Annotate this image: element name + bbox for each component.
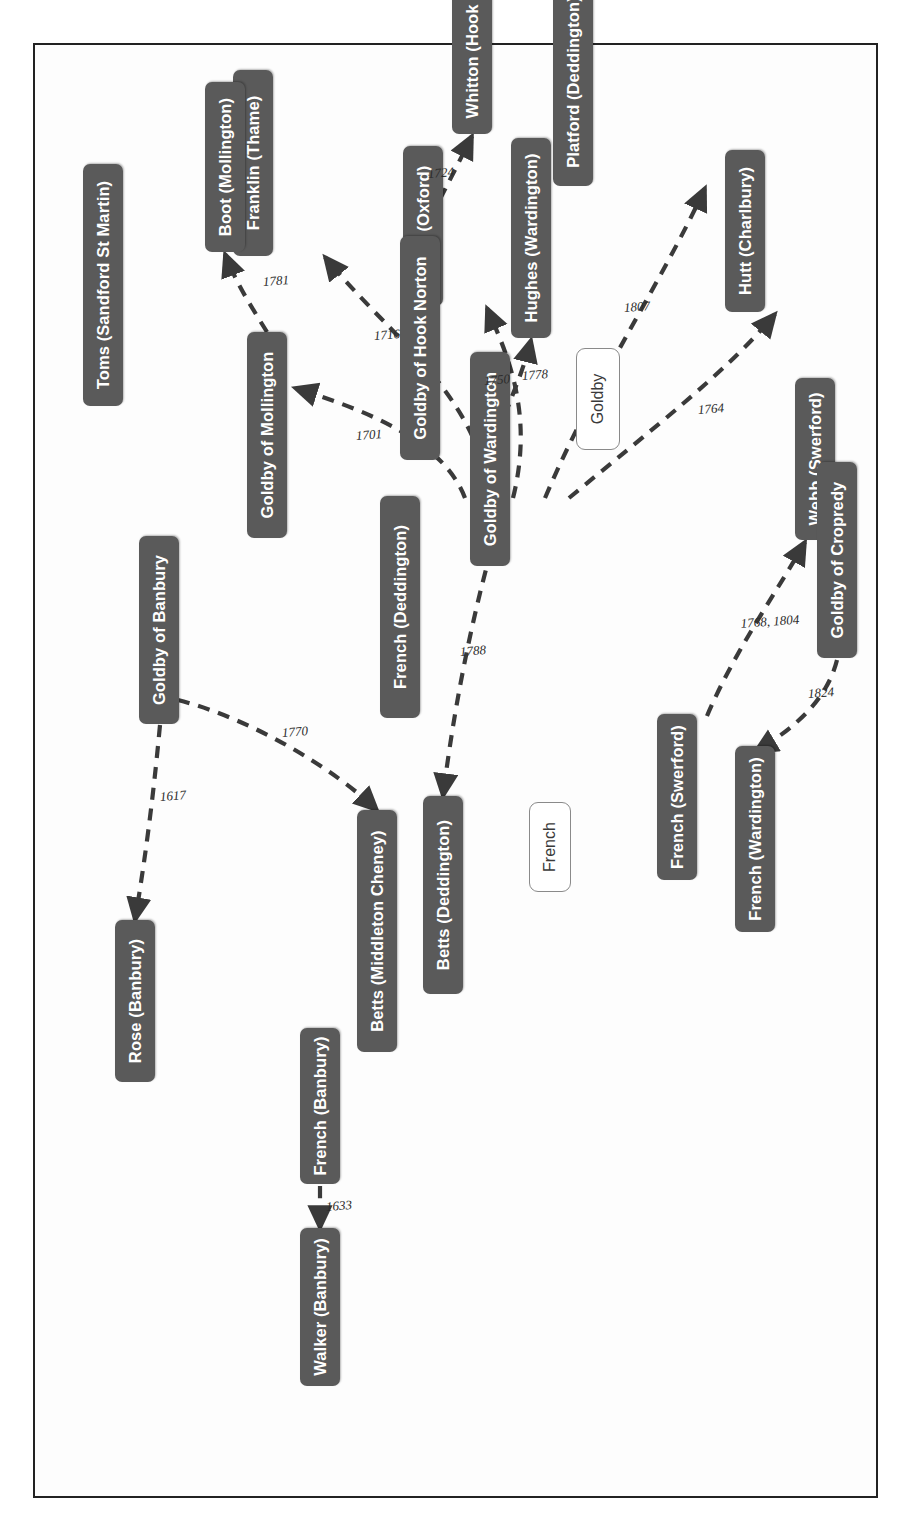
node-goldby-banbury[interactable]: Goldby of Banbury: [139, 536, 179, 724]
node-betts-middleton[interactable]: Betts (Middleton Cheney): [357, 810, 397, 1052]
edge-path-1807: [545, 188, 705, 498]
diagram-stage: Toms (Sandford St Martin) Franklin (Tham…: [35, 45, 880, 1500]
node-french-wardington[interactable]: French (Wardington): [735, 746, 775, 932]
edge-path-1824: [755, 660, 837, 752]
edge-label-1701: 1701: [355, 426, 382, 444]
edge-label-1724: 1724: [427, 164, 454, 182]
edge-label-1781: 1781: [262, 272, 289, 290]
edge-path-1617: [135, 725, 160, 920]
node-walker[interactable]: Walker (Banbury): [300, 1228, 340, 1386]
edge-label-1633: 1633: [325, 1197, 352, 1215]
edge-label-1807: 1807: [623, 298, 650, 316]
node-french-swerford[interactable]: French (Swerford): [657, 714, 697, 880]
node-boot[interactable]: Boot (Mollington): [205, 82, 245, 252]
node-goldby-cropredy[interactable]: Goldby of Cropredy: [817, 462, 857, 658]
diagram-frame: Toms (Sandford St Martin) Franklin (Tham…: [33, 43, 878, 1498]
edge-label-1788: 1788: [459, 642, 486, 660]
diagram-page: Toms (Sandford St Martin) Franklin (Tham…: [0, 0, 909, 1538]
edge-label-1778: 1778: [521, 366, 548, 384]
node-goldby-mollington[interactable]: Goldby of Mollington: [247, 332, 287, 538]
edge-label-1716: 1716: [373, 326, 400, 344]
node-hutt[interactable]: Hutt (Charlbury): [725, 150, 765, 312]
node-hughes[interactable]: Hughes (Wardington): [511, 138, 551, 338]
legend-box-goldby[interactable]: Goldby: [576, 348, 620, 450]
node-toms[interactable]: Toms (Sandford St Martin): [83, 164, 123, 406]
edge-label-1750: 1750: [483, 371, 510, 389]
edge-label-1824: 1824: [807, 684, 834, 702]
node-french-deddington[interactable]: French (Deddington): [380, 496, 420, 718]
edge-path-1770: [178, 700, 377, 810]
legend-box-french[interactable]: French: [529, 802, 571, 892]
node-betts-deddington[interactable]: Betts (Deddington): [423, 796, 463, 994]
node-platford[interactable]: Platford (Deddington): [553, 0, 593, 186]
node-rose[interactable]: Rose (Banbury): [115, 920, 155, 1082]
edge-label-1770: 1770: [281, 723, 308, 741]
edge-label-1764: 1764: [697, 400, 724, 418]
node-goldby-hooknorton[interactable]: Goldby of Hook Norton: [400, 236, 440, 460]
node-whitton[interactable]: Whitton (Hook Norton): [452, 0, 492, 134]
edge-path-1781: [225, 254, 267, 332]
edge-label-1768-1804: 1768, 1804: [740, 612, 799, 632]
edge-label-1617: 1617: [159, 787, 186, 805]
node-french-banbury[interactable]: French (Banbury): [300, 1028, 340, 1184]
